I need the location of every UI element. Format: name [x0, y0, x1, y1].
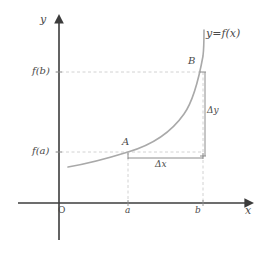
x-tick-label-b: b: [195, 206, 201, 215]
y-tick-label-fa: f(a): [32, 146, 49, 156]
axes: [18, 22, 246, 240]
x-tick-label-a: a: [125, 206, 130, 215]
axis-ticks: [56, 72, 203, 206]
point-b-label: B: [188, 56, 195, 66]
origin-label: O: [58, 206, 65, 215]
x-axis-label: x: [245, 205, 251, 216]
rate-of-change-figure: y x O a b f(b) f(a) A B Δy Δx y=f(x): [0, 0, 267, 257]
function-curve: [68, 30, 204, 167]
y-tick-label-fb: f(b): [32, 66, 50, 76]
point-a-label: A: [122, 137, 129, 147]
y-axis-label: y: [40, 14, 46, 25]
curve-equation-label: y=f(x): [206, 28, 240, 39]
delta-y-label: Δy: [207, 106, 219, 115]
delta-x-label: Δx: [155, 160, 167, 169]
